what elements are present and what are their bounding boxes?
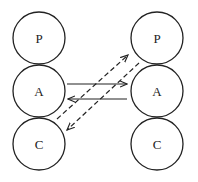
right-parent-node: P (131, 12, 183, 64)
left-child-label: C (35, 137, 44, 152)
right-child-label: C (153, 137, 162, 152)
left-ego-states: P C A (13, 12, 65, 170)
child-to-parent-dashed-arrow-icon (57, 55, 128, 119)
left-child-node: C (13, 118, 65, 170)
left-adult-label: A (34, 84, 44, 99)
parent-to-child-dashed-arrow-icon (67, 63, 139, 130)
right-ego-states: P C A (131, 12, 183, 170)
right-child-node: C (131, 118, 183, 170)
left-parent-label: P (35, 31, 42, 46)
left-parent-node: P (13, 12, 65, 64)
right-adult-node: A (131, 65, 183, 117)
right-adult-label: A (152, 84, 162, 99)
transactional-analysis-diagram: P C A P C A (0, 0, 198, 182)
right-parent-label: P (153, 31, 160, 46)
left-adult-node: A (13, 65, 65, 117)
